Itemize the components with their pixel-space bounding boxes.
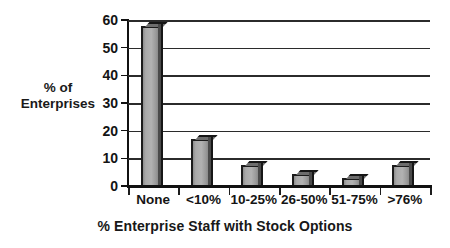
gridline [128, 20, 430, 22]
bar [241, 165, 260, 186]
y-axis-tick-label: 20 [88, 124, 118, 138]
gridline [128, 131, 430, 133]
y-axis-tick-label: 10 [88, 151, 118, 165]
bar [392, 165, 411, 186]
bar [191, 139, 210, 186]
y-axis-tick-label: 30 [88, 96, 118, 110]
y-axis-tick-label: 40 [88, 68, 118, 82]
bar [141, 26, 160, 186]
x-axis-title: % Enterprise Staff with Stock Options [0, 218, 450, 234]
gridline [128, 75, 430, 77]
x-axis-category-label: >76% [365, 192, 445, 208]
y-axis-tick-label: 60 [88, 13, 118, 27]
gridline [128, 158, 430, 160]
bar-chart-figure: % of Enterprises 0102030405060 None<10%1… [0, 0, 450, 248]
y-axis-tick-label: 0 [88, 179, 118, 193]
gridline [128, 48, 430, 50]
y-axis-title-line-1: % of [14, 80, 102, 96]
plot-area [128, 20, 430, 186]
gridline [128, 103, 430, 105]
y-axis-tick-label: 50 [88, 41, 118, 55]
